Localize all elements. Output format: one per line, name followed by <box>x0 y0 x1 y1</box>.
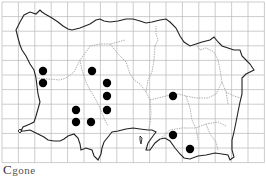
record-dot <box>169 92 177 100</box>
record-dot <box>72 106 80 114</box>
record-dot <box>103 92 111 100</box>
islet <box>140 136 142 144</box>
caption-initial: C <box>3 162 12 177</box>
distribution-map <box>0 0 266 166</box>
caption-text: gone <box>12 164 35 176</box>
record-dot <box>87 118 95 126</box>
record-dot <box>186 145 194 153</box>
record-dot <box>103 79 111 87</box>
parish-boundaries <box>36 26 240 150</box>
record-dot <box>39 79 47 87</box>
record-dot <box>72 118 80 126</box>
record-dot <box>39 67 47 75</box>
coastline <box>16 10 254 160</box>
record-dot <box>88 67 96 75</box>
record-dot <box>103 106 111 114</box>
record-dot <box>169 131 177 139</box>
map-caption: Cgone <box>3 164 36 176</box>
